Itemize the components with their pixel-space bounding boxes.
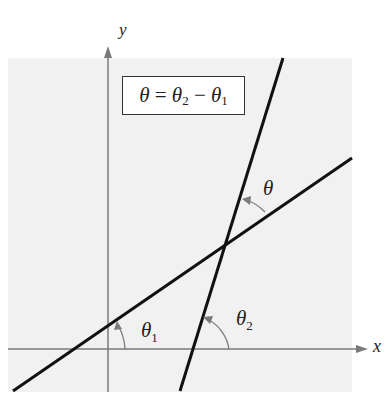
formula-box: θ = θ2 − θ1: [122, 76, 245, 115]
theta1-sub: 1: [151, 330, 158, 345]
formula-theta2-sub: 2: [182, 93, 189, 109]
theta1-label: θ1: [141, 318, 158, 343]
formula-equals: =: [149, 83, 171, 108]
theta-symbol: θ: [263, 176, 273, 200]
theta1-symbol: θ: [141, 318, 151, 342]
formula-minus: −: [189, 83, 211, 108]
theta-label: θ: [263, 176, 273, 201]
x-axis-arrow-icon: [356, 345, 368, 353]
y-axis-arrow-icon: [104, 46, 112, 58]
formula-theta1-sub: 1: [221, 93, 228, 109]
formula-theta1: θ: [211, 83, 221, 108]
formula-theta2: θ: [172, 83, 182, 108]
diagram-canvas: [0, 0, 391, 407]
formula-theta: θ: [139, 83, 149, 108]
theta2-sub: 2: [246, 318, 253, 333]
theta2-symbol: θ: [236, 306, 246, 330]
x-axis-label: x: [373, 336, 381, 357]
theta2-label: θ2: [236, 306, 253, 331]
y-axis-label: y: [119, 20, 127, 40]
